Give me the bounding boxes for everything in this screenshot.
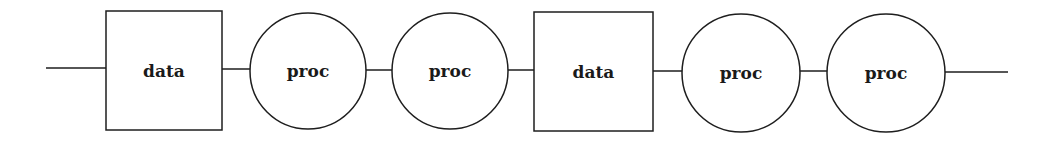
node-label: proc	[287, 61, 330, 81]
data-node: data	[106, 11, 222, 130]
node-label: data	[573, 62, 615, 82]
node-label: proc	[720, 63, 763, 83]
proc-node: proc	[682, 14, 800, 132]
data-node: data	[534, 12, 653, 131]
proc-node: proc	[250, 13, 366, 129]
node-label: proc	[865, 63, 908, 83]
node-label: proc	[429, 61, 472, 81]
proc-node: proc	[827, 14, 945, 132]
proc-node: proc	[392, 13, 508, 129]
pipeline-diagram: dataprocprocdataprocproc	[0, 0, 1058, 141]
node-label: data	[143, 61, 185, 81]
